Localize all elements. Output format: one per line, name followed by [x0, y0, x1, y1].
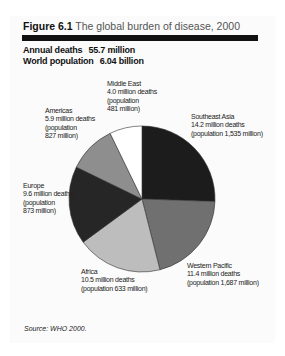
label-americas: Americas5.9 million deaths(population827…	[45, 107, 95, 141]
label-europe: Europe9.6 million deaths(population873 m…	[23, 182, 73, 216]
label-africa: Africa10.5 million deaths(population 633…	[81, 268, 147, 293]
source-note: Source: WHO 2000.	[24, 325, 87, 332]
pie-chart	[0, 0, 285, 356]
label-middle-east: Middle East4.0 million deaths(population…	[107, 80, 157, 114]
label-southeast-asia: Southeast Asia14.2 million deaths(popula…	[191, 113, 263, 138]
label-western-pacific: Western Pacific11.4 million deaths(popul…	[187, 262, 259, 287]
